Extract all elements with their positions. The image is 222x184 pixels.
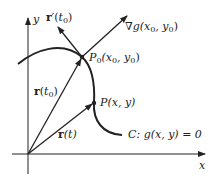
point-p0 [80,55,84,59]
r-t-label: r(t) [58,129,77,140]
y-axis-label: y [33,14,39,25]
point-p [92,101,96,105]
curve-c-label: C: g(x, y) = 0 [128,129,202,140]
vector-r-prime-t0 [58,27,82,57]
gradient-diagram: y x r′(t0) ∇g(x0, y0) P0(x0, y0) P(x, y)… [0,0,222,184]
r-t0-label: r(t0) [34,86,58,99]
r-prime-t0-label: r′(t0) [46,12,72,25]
gradient-label: ∇g(x0, y0) [125,21,178,34]
point-p0-label: P0(x0, y0) [89,52,140,65]
x-axis-label: x [199,160,205,171]
point-p-label: P(x, y) [100,97,135,108]
